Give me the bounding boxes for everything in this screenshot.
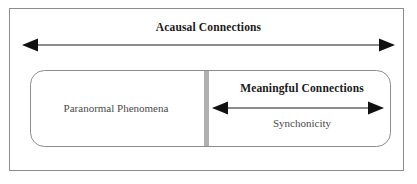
- acausal-connections-arrow: [22, 39, 395, 52]
- arrow-head-left-icon: [22, 39, 38, 52]
- arrow-head-right-icon: [379, 39, 395, 52]
- synchonicity-label: Synchonicity: [213, 117, 391, 129]
- acausal-connections-diagram: Acausal Connections Paranormal Phenomena…: [0, 0, 417, 184]
- paranormal-phenomena-label: Paranormal Phenomena: [30, 102, 202, 114]
- meaningful-connections-heading: Meaningful Connections: [213, 82, 391, 94]
- vertical-divider: [204, 71, 209, 146]
